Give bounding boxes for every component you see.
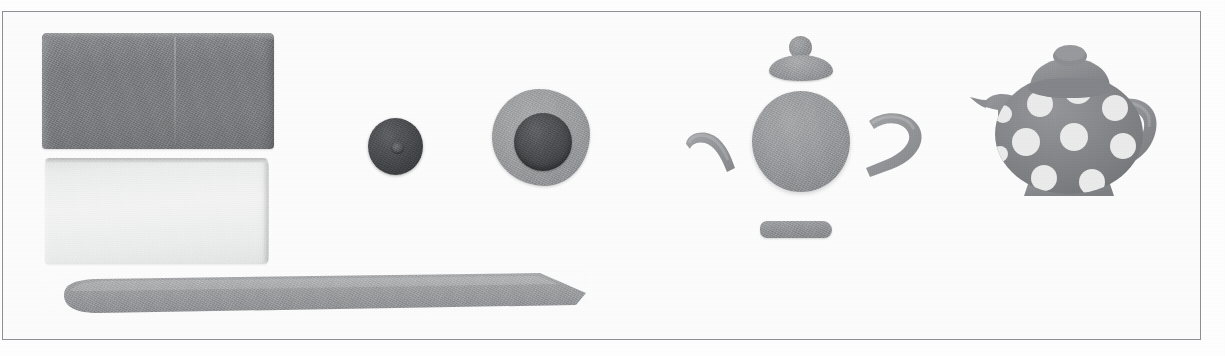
light-block-texture (45, 158, 268, 264)
small-ball-dimple (391, 142, 404, 154)
small-dark-clay-ball (368, 118, 423, 175)
clay-blade (40, 271, 586, 317)
body-ball-texture (752, 91, 850, 192)
teapot-base-bar (760, 221, 832, 238)
dark-block-top-edge (42, 33, 274, 40)
finished-teapot (966, 42, 1162, 202)
polka-dot-3 (1102, 95, 1128, 121)
teapot-spout-piece (683, 128, 741, 174)
dark-block-texture (42, 33, 274, 149)
dark-block-seam (174, 37, 176, 144)
base-bar-texture (760, 221, 832, 238)
light-block-top-edge (46, 158, 267, 163)
light-clay-block (45, 158, 268, 264)
light-block-right-edge (263, 162, 269, 262)
teapot-lid (769, 55, 833, 81)
polka-dot-4 (1012, 128, 1040, 156)
lid-texture (769, 55, 833, 81)
polka-dot-7 (1031, 165, 1057, 191)
polka-dot-5 (1060, 123, 1088, 151)
teapot-body-ball (752, 91, 850, 192)
polka-dot-6 (1110, 133, 1136, 159)
dark-clay-disc (514, 113, 572, 171)
polka-dot-10 (992, 146, 1008, 162)
teapot-handle-piece (862, 111, 928, 182)
teapot-lid-assembled (1028, 45, 1112, 98)
dark-disc-texture (514, 113, 572, 171)
dark-clay-block (42, 33, 274, 149)
clay-teapot-figure (0, 0, 1225, 356)
